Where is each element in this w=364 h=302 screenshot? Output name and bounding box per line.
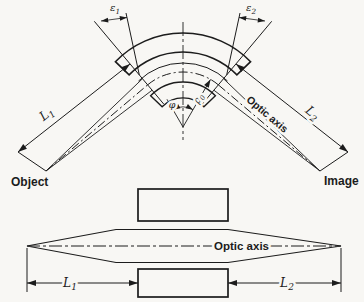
epsilon2-angle-arrow	[239, 18, 265, 22]
object-label: Object	[11, 175, 48, 189]
object-ray-lower	[46, 90, 152, 171]
epsilon1-angle-arrow	[101, 18, 127, 22]
figure-canvas: ε1 ε2 L1 L2 Optic axis ρ0 φ Object Image…	[0, 0, 364, 302]
optics-diagram: ε1 ε2 L1 L2 Optic axis ρ0 φ Object Image…	[0, 0, 364, 302]
optic-axis-entrance-segment	[46, 85, 148, 171]
l2-label-top: L2	[301, 102, 324, 125]
optic-axis-label-top: Optic axis	[245, 93, 291, 135]
epsilon2-label: ε2	[246, 2, 256, 16]
optic-axis-label-bottom: Optic axis	[214, 240, 269, 252]
l1-dimension-arrow	[18, 64, 130, 152]
phi-label: φ	[169, 99, 176, 110]
image-plane-bar	[320, 152, 348, 171]
lower-pole-piece	[138, 269, 228, 297]
l2-label-bottom: L2	[279, 275, 294, 292]
object-plane-bar	[18, 152, 46, 171]
upper-pole-piece	[138, 189, 228, 221]
image-label: Image	[324, 174, 359, 188]
image-ray-lower	[214, 90, 320, 171]
l1-label-bottom: L1	[62, 275, 77, 292]
epsilon1-label: ε1	[110, 2, 120, 16]
optic-axis-exit-segment	[218, 85, 320, 171]
l1-label-top: L1	[35, 103, 57, 126]
